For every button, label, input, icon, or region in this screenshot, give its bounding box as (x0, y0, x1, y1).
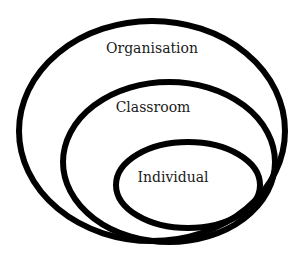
diagram-svg: Organisation Classroom Individual (0, 0, 302, 253)
nested-levels-diagram: Organisation Classroom Individual (0, 0, 302, 253)
organisation-label: Organisation (106, 40, 198, 56)
classroom-label: Classroom (116, 99, 191, 115)
individual-ellipse (116, 142, 260, 228)
individual-label: Individual (137, 169, 209, 185)
